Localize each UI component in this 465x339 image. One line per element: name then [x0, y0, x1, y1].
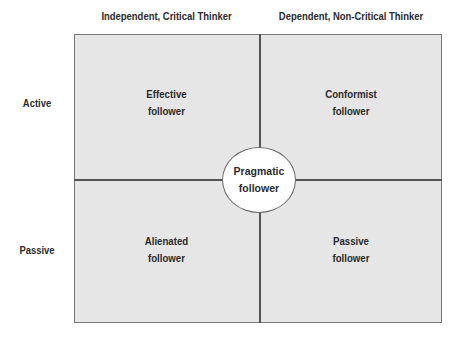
quadrant-label-line1: Conformist [266, 86, 435, 103]
row-label-passive: Passive [4, 244, 71, 256]
quadrant-label-line1: Passive [266, 233, 435, 250]
column-header-dependent: Dependent, Non-Critical Thinker [268, 10, 434, 22]
quadrant-label-line2: follower [266, 103, 435, 120]
center-label-line2: follower [239, 180, 279, 197]
quadrant-passive-follower: Passive follower [266, 233, 435, 267]
center-circle-pragmatic-follower: Pragmatic follower [222, 147, 296, 213]
quadrant-conformist-follower: Conformist follower [266, 86, 435, 120]
center-label-line1: Pragmatic [234, 163, 285, 180]
quadrant-label-line2: follower [81, 103, 251, 120]
quadrant-alienated-follower: Alienated follower [81, 233, 251, 267]
quadrant-label-line2: follower [266, 250, 435, 267]
row-label-active: Active [4, 97, 71, 109]
quadrant-effective-follower: Effective follower [81, 86, 251, 120]
column-header-independent: Independent, Critical Thinker [83, 10, 250, 22]
quadrant-label-line1: Alienated [81, 233, 251, 250]
quadrant-label-line1: Effective [81, 86, 251, 103]
quadrant-label-line2: follower [81, 250, 251, 267]
